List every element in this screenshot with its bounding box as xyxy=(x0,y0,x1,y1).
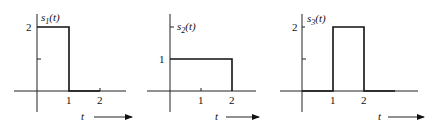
plot-s3: 2 1 2 s3(t) t xyxy=(280,12,424,122)
signal-trace xyxy=(302,27,395,91)
signal-label: s2(t) xyxy=(177,20,196,35)
plot-s1: 2 1 2 s1(t) t xyxy=(14,11,132,122)
y-tick-label: 2 xyxy=(292,21,298,33)
x-tick-label-1: 1 xyxy=(330,94,336,106)
t-axis-label: t xyxy=(81,110,85,122)
y-tick-label: 2 xyxy=(26,21,32,33)
x-tick-label-1: 1 xyxy=(66,94,72,106)
x-tick-label-2: 2 xyxy=(97,94,103,106)
plot-s2: 1 1 2 s2(t) t xyxy=(147,14,259,122)
x-tick-label-2: 2 xyxy=(229,94,235,106)
x-tick-label-2: 2 xyxy=(361,94,367,106)
signal-trace xyxy=(37,27,100,91)
signal-label: s1(t) xyxy=(41,11,60,26)
y-tick-label: 1 xyxy=(159,53,165,65)
signal-diagram: 2 1 2 s1(t) t 1 1 2 s2(t) t 2 1 2 s3(t) … xyxy=(0,0,434,129)
t-axis-label: t xyxy=(215,110,219,122)
t-axis-label: t xyxy=(378,110,382,122)
x-tick-label-1: 1 xyxy=(198,94,204,106)
signal-label: s3(t) xyxy=(307,12,326,27)
signal-trace xyxy=(170,59,232,91)
